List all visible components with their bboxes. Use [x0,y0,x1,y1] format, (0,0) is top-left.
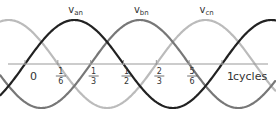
fraction-denominator: 6 [190,77,195,86]
fraction-numerator: 5 [190,67,195,76]
fraction-numerator: 1 [58,67,63,76]
x-tick-fraction-label: 12 [122,67,132,86]
x-tick-fraction-label: 23 [154,67,164,86]
fraction-numerator: 1 [91,67,96,76]
fraction-denominator: 3 [91,77,96,86]
fraction-numerator: 2 [157,67,162,76]
fraction-denominator: 3 [157,77,162,86]
fraction-denominator: 6 [58,77,63,86]
series-label-vbn: vbn [134,4,149,17]
x-tick-fraction-label: 13 [89,67,99,86]
three-phase-waveform-diagram: 016131223561 vanvbnvcn cycles [0,0,276,122]
x-tick-fraction-label: 16 [56,67,66,86]
series-label-vcn: vcn [200,4,214,17]
fraction-numerator: 1 [124,67,129,76]
series-label-van: van [68,4,83,17]
x-tick-label: 0 [30,70,37,83]
series-labels: vanvbnvcn [68,4,214,17]
x-tick-fraction-label: 56 [187,67,197,86]
fraction-denominator: 2 [124,77,129,86]
x-axis-label: cycles [233,70,267,83]
